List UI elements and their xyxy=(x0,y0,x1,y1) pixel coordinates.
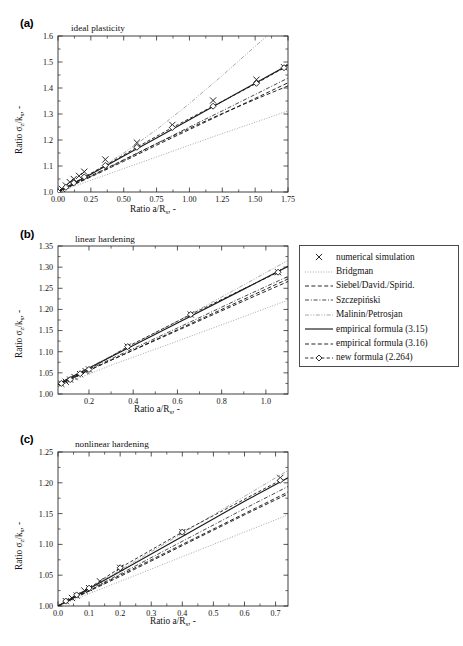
y-tick-label: 1.05 xyxy=(39,369,53,378)
x-tick-label: 0.0 xyxy=(53,609,63,618)
legend-item-label: empirical formula (3.16) xyxy=(336,339,428,348)
xlabel-tail: , - xyxy=(188,616,196,626)
x-tick-label: 0.5 xyxy=(208,609,218,618)
ylabel-tail: , - xyxy=(14,310,24,318)
legend-item-label: new formula (2.264) xyxy=(336,353,413,362)
y-tick-label: 1.10 xyxy=(39,540,53,549)
x-tick-label: 0.8 xyxy=(217,397,227,406)
ylabel-head: Ratio xyxy=(14,336,24,358)
y-tick-label: 1.30 xyxy=(39,263,53,272)
y-tick-label: 1.15 xyxy=(39,510,53,519)
panel-c-plot: 0.00.10.20.30.40.50.60.71.001.051.101.15… xyxy=(0,428,300,633)
legend-item-label: Malinin/Petrosjan xyxy=(336,310,403,319)
xlabel-tail: , - xyxy=(172,404,180,414)
panel-a-yaxis-label: Ratio σz/ks, - xyxy=(14,106,25,154)
ylabel-sub2: s xyxy=(18,318,25,321)
y-tick-label: 1.2 xyxy=(43,136,53,145)
legend-item-label: numerical simulation xyxy=(336,253,415,262)
ylabel-head: Ratio xyxy=(14,132,24,154)
x-tick-label: 1.25 xyxy=(215,195,229,204)
ylabel-tail: , - xyxy=(14,106,24,114)
legend: numerical simulationBridgmanSiebel/David… xyxy=(299,245,459,367)
x-tick-label: 0.1 xyxy=(84,609,94,618)
dashdotdot-line xyxy=(302,308,336,322)
panel-a-svg: 0.000.250.500.751.001.251.501.751.01.11.… xyxy=(0,14,300,219)
ylabel-mid: /k xyxy=(14,116,24,123)
legend-item-label: Siebel/David./Spirid. xyxy=(336,281,415,290)
panel-a-plot: 0.000.250.500.751.001.251.501.751.01.11.… xyxy=(0,14,300,219)
x-tick-label: 0.2 xyxy=(115,609,125,618)
legend-item: Bridgman xyxy=(302,264,458,278)
ylabel-sym: σ xyxy=(14,543,24,548)
panel-c-xaxis-label: Ratio a/Rs, - xyxy=(150,616,196,627)
dashed-line xyxy=(302,279,336,293)
ylabel-tail: , - xyxy=(14,522,24,530)
y-tick-label: 1.00 xyxy=(39,390,53,399)
legend-item: Szczepiński xyxy=(302,293,458,307)
y-tick-label: 1.05 xyxy=(39,571,53,580)
ylabel-sym: σ xyxy=(14,127,24,132)
panel-b-yaxis-label: Ratio σz/ks, - xyxy=(14,310,25,358)
diamond-dashed-line xyxy=(302,351,336,365)
legend-item: new formula (2.264) xyxy=(302,351,458,365)
y-tick-label: 1.20 xyxy=(39,479,53,488)
y-tick-label: 1.0 xyxy=(43,188,53,197)
x-tick-label: 1.00 xyxy=(182,195,196,204)
legend-item-label: Szczepiński xyxy=(336,296,380,305)
cross-marker xyxy=(302,250,336,264)
x-tick-label: 0.2 xyxy=(84,397,94,406)
y-tick-label: 1.25 xyxy=(39,448,53,457)
y-tick-label: 1.4 xyxy=(43,84,53,93)
x-tick-label: 0.7 xyxy=(271,609,281,618)
x-tick-label: 1.0 xyxy=(261,397,271,406)
panel-b-plot: 0.20.40.60.81.01.001.051.101.151.201.251… xyxy=(0,226,300,418)
xlabel-text: Ratio a/R xyxy=(130,204,165,214)
y-tick-label: 1.20 xyxy=(39,305,53,314)
dashdot-line xyxy=(302,293,336,307)
legend-item: Malinin/Petrosjan xyxy=(302,308,458,322)
y-tick-label: 1.35 xyxy=(39,242,53,251)
ylabel-mid: /k xyxy=(14,532,24,539)
legend-item: empirical formula (3.16) xyxy=(302,336,458,350)
legend-item: numerical simulation xyxy=(302,250,458,264)
y-tick-label: 1.1 xyxy=(43,162,53,171)
x-tick-label: 0.75 xyxy=(149,195,163,204)
panel-a: (a) 0.000.250.500.751.001.251.501.751.01… xyxy=(0,14,300,219)
legend-item: Siebel/David./Spirid. xyxy=(302,279,458,293)
y-tick-label: 1.5 xyxy=(43,58,53,67)
legend-item: empirical formula (3.15) xyxy=(302,322,458,336)
panel-b-xaxis-label: Ratio a/Rs, - xyxy=(134,404,180,415)
xlabel-text: Ratio a/R xyxy=(150,616,185,626)
panel-a-xaxis-label: Ratio a/Rs, - xyxy=(130,204,176,215)
legend-item-label: empirical formula (3.15) xyxy=(336,325,428,334)
solid-line xyxy=(302,322,336,336)
ylabel-mid: /k xyxy=(14,320,24,327)
panel-c: (c) 0.00.10.20.30.40.50.60.71.001.051.10… xyxy=(0,428,300,633)
xlabel-tail: , - xyxy=(168,204,176,214)
panel-b-svg: 0.20.40.60.81.01.001.051.101.151.201.251… xyxy=(0,226,300,418)
xlabel-text: Ratio a/R xyxy=(134,404,169,414)
panel-c-yaxis-label: Ratio σz/ks, - xyxy=(14,522,25,570)
y-tick-label: 1.6 xyxy=(43,32,53,41)
panel-a-annotation: ideal plasticity xyxy=(71,23,125,33)
panel-c-svg: 0.00.10.20.30.40.50.60.71.001.051.101.15… xyxy=(0,428,300,633)
x-tick-label: 0.6 xyxy=(239,609,249,618)
x-tick-label: 0.25 xyxy=(84,195,98,204)
ylabel-head: Ratio xyxy=(14,548,24,570)
x-tick-label: 0.50 xyxy=(117,195,131,204)
x-tick-label: 0.00 xyxy=(51,195,65,204)
y-tick-label: 1.25 xyxy=(39,284,53,293)
y-tick-label: 1.00 xyxy=(39,602,53,611)
dotted-line xyxy=(302,264,336,278)
ylabel-sym: σ xyxy=(14,331,24,336)
x-tick-label: 1.50 xyxy=(248,195,262,204)
panel-c-annotation: nonlinear hardening xyxy=(75,439,149,449)
panel-b: (b) 0.20.40.60.81.01.001.051.101.151.201… xyxy=(0,226,300,418)
x-tick-label: 1.75 xyxy=(281,195,295,204)
y-tick-label: 1.3 xyxy=(43,110,53,119)
y-tick-label: 1.15 xyxy=(39,326,53,335)
y-tick-label: 1.10 xyxy=(39,348,53,357)
legend-item-label: Bridgman xyxy=(336,267,373,276)
dashed-line xyxy=(302,336,336,350)
panel-b-annotation: linear hardening xyxy=(75,234,135,244)
